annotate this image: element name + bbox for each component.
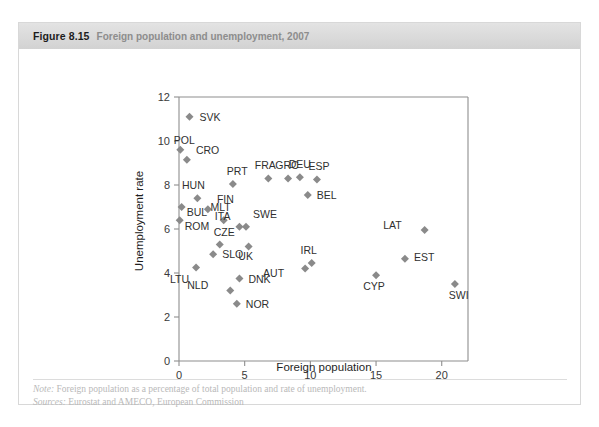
data-point-marker (183, 156, 191, 164)
data-point-marker (176, 216, 184, 224)
data-point-label: CYP (363, 280, 385, 292)
chart-canvas: 02468101205101520 SVKPOLCROPRTHUNFINBULR… (19, 49, 582, 379)
data-point-marker (176, 146, 184, 154)
data-point-label: SVK (200, 111, 221, 123)
data-point-label: ITA (215, 210, 231, 222)
y-axis-title: Unemployment rate (133, 171, 145, 271)
data-point-marker (284, 174, 292, 182)
data-point-label: NOR (246, 298, 270, 310)
data-point-marker (304, 191, 312, 199)
data-point-label: POL (174, 134, 195, 146)
data-point-marker (216, 240, 224, 248)
data-point-label: BEL (317, 189, 337, 201)
data-point-label: CZE (214, 226, 235, 238)
footer-note-text: Foreign population as a percentage of to… (54, 384, 367, 394)
y-tick-label: 2 (164, 311, 170, 323)
x-tick-label: 0 (176, 369, 182, 379)
y-tick-label: 12 (158, 91, 170, 103)
x-tick-label: 15 (370, 369, 382, 379)
data-point-label: ESP (308, 160, 329, 172)
data-point-label: UK (238, 250, 253, 262)
data-point-marker (193, 194, 201, 202)
data-point-label: HUN (182, 179, 205, 191)
data-point-marker (192, 264, 200, 272)
footer-sources-line: Sources: Eurostat and AMECO, European Co… (33, 396, 567, 409)
data-point-label: LAT (383, 219, 402, 231)
x-tick-label: 20 (436, 369, 448, 379)
data-point-label: NLD (187, 279, 208, 291)
data-point-marker (233, 300, 241, 308)
footer-sources-text: Eurostat and AMECO, European Commission (66, 397, 244, 407)
data-point-label: BUL (187, 206, 208, 218)
data-point-marker (372, 271, 380, 279)
data-point-label: FRA (255, 159, 276, 171)
figure-header: Figure 8.15 Foreign population and unemp… (19, 23, 580, 49)
data-points-group: SVKPOLCROPRTHUNFINBULROMMLTCZEITASWESLOU… (170, 111, 469, 310)
scatter-plot: 02468101205101520 SVKPOLCROPRTHUNFINBULR… (19, 49, 580, 379)
data-point-label: EST (414, 251, 435, 263)
x-axis-title: Foreign population (276, 361, 371, 373)
data-point-marker (421, 226, 429, 234)
data-point-marker (308, 259, 316, 267)
data-point-label: PRT (227, 165, 248, 177)
data-point-label: IRL (301, 244, 318, 256)
data-point-label: ROM (185, 220, 210, 232)
y-tick-label: 10 (158, 135, 170, 147)
footer-note-line: Note: Foreign population as a percentage… (33, 383, 567, 396)
data-point-marker (401, 255, 409, 263)
figure-card: Figure 8.15 Foreign population and unemp… (18, 22, 581, 405)
data-point-marker (229, 180, 237, 188)
data-point-marker (264, 174, 272, 182)
x-tick-label: 5 (242, 369, 248, 379)
data-point-label: SWI (449, 289, 469, 301)
data-point-label: LTU (170, 273, 189, 285)
data-point-marker (301, 265, 309, 273)
data-point-marker (235, 275, 243, 283)
footer-note-lead: Note: (33, 384, 54, 394)
footer-sources-lead: Sources: (33, 397, 66, 407)
data-point-marker (242, 223, 250, 231)
figure-title: Foreign population and unemployment, 200… (97, 31, 310, 42)
data-point-marker (186, 113, 194, 121)
data-point-marker (226, 287, 234, 295)
data-point-marker (451, 280, 459, 288)
figure-footer: Note: Foreign population as a percentage… (33, 383, 567, 408)
y-tick-label: 8 (164, 179, 170, 191)
data-point-marker (296, 173, 304, 181)
data-point-marker (313, 176, 321, 184)
data-point-label: AUT (263, 267, 285, 279)
y-tick-label: 0 (164, 355, 170, 367)
data-point-marker (209, 250, 217, 258)
figure-number: Figure 8.15 (33, 30, 90, 42)
axes-group: 02468101205101520 (158, 91, 468, 379)
y-tick-label: 6 (164, 223, 170, 235)
footer-divider (33, 379, 567, 380)
data-point-label: CRO (196, 144, 219, 156)
data-point-label: SWE (253, 208, 277, 220)
